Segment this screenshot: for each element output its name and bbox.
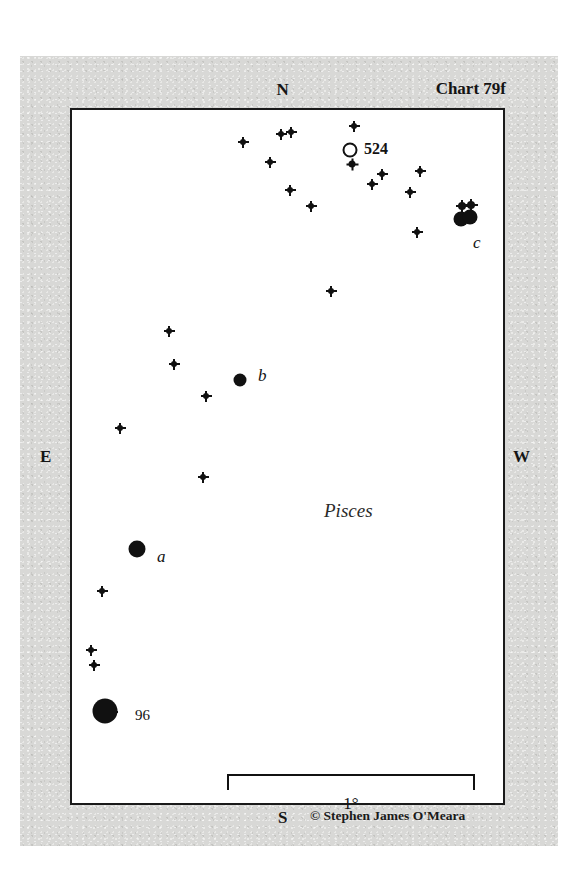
star-marker [99,588,105,594]
star-marker [287,187,293,193]
chart-title: Chart 79f [436,79,506,99]
object-label: c [473,233,481,253]
object-label: 96 [135,707,150,724]
star-marker [203,393,209,399]
star-marker [328,288,334,294]
star-marker [308,203,314,209]
scale-bar-cap-right [473,774,475,790]
star-marker [240,139,246,145]
deep-sky-object-marker [343,143,358,158]
star-marker [200,474,206,480]
star-marker [414,229,420,235]
constellation-label: Pisces [324,500,373,522]
star-marker [117,425,123,431]
star-marker [93,699,118,724]
cardinal-label-south: S [0,808,572,828]
star-marker [463,210,478,225]
star-marker [171,361,177,367]
star-field: bca96524 [72,110,503,803]
star-marker [351,123,357,129]
star-marker [288,129,294,135]
star-marker [369,181,375,187]
star-marker [91,662,97,668]
scale-bar-line [227,774,475,776]
star-marker [129,541,146,558]
star-marker [379,171,385,177]
star-marker [349,161,356,168]
scale-bar-cap-left [227,774,229,790]
star-marker [278,131,284,137]
object-label: b [258,366,267,386]
copyright-credit: © Stephen James O'Meara [310,808,465,824]
cardinal-label-west: W [513,447,531,467]
star-marker [88,647,94,653]
star-marker [267,159,273,165]
star-marker [467,201,475,209]
star-chart-frame: bca96524 Pisces 1° [70,108,505,805]
scale-bar [227,774,475,790]
star-marker [166,328,172,334]
cardinal-label-east: E [40,447,52,467]
star-marker [234,374,247,387]
star-marker [417,168,423,174]
object-label: a [157,547,166,567]
star-marker [407,189,413,195]
object-label: 524 [364,140,388,158]
